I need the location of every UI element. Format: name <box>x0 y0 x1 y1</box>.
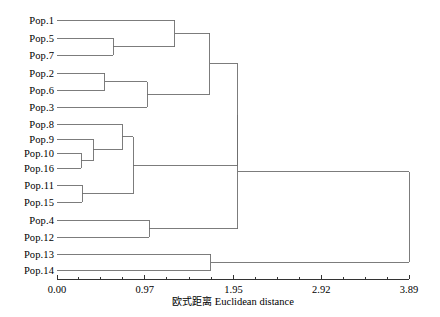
leaf-label-pop-5: Pop.5 <box>29 33 54 44</box>
leaf-label-pop-2: Pop.2 <box>29 68 54 79</box>
leaf-label-pop-3: Pop.3 <box>29 102 54 113</box>
leaf-label-pop-15: Pop.15 <box>24 197 54 208</box>
x-tick-label: 2.92 <box>312 284 330 295</box>
leaf-label-pop-8: Pop.8 <box>29 119 54 130</box>
axis-title-english: Euclidean distance <box>215 296 294 307</box>
leaf-label-pop-9: Pop.9 <box>29 134 54 145</box>
leaf-label-pop-12: Pop.12 <box>24 232 54 243</box>
leaf-label-pop-7: Pop.7 <box>29 50 54 61</box>
leaf-label-pop-14: Pop.14 <box>24 265 54 276</box>
x-tick-label: 0.97 <box>136 284 154 295</box>
leaf-label-pop-10: Pop.10 <box>24 148 54 159</box>
dendrogram-figure: Pop.1Pop.5Pop.7Pop.2Pop.6Pop.3Pop.8Pop.9… <box>0 0 440 317</box>
x-tick-label: 0.00 <box>48 284 66 295</box>
dendrogram-canvas <box>0 0 440 317</box>
axis-title-chinese: 欧式距离 <box>172 296 212 307</box>
leaf-label-pop-4: Pop.4 <box>29 215 54 226</box>
x-axis <box>57 275 409 279</box>
leaf-label-pop-6: Pop.6 <box>29 85 54 96</box>
leaf-label-pop-16: Pop.16 <box>24 163 54 174</box>
dendrogram-branches <box>57 20 409 270</box>
leaf-label-pop-1: Pop.1 <box>29 15 54 26</box>
axis-title: 欧式距离 Euclidean distance <box>172 293 294 308</box>
leaf-label-pop-11: Pop.11 <box>24 180 54 191</box>
leaf-label-pop-13: Pop.13 <box>24 249 54 260</box>
x-tick-label: 3.89 <box>400 284 418 295</box>
